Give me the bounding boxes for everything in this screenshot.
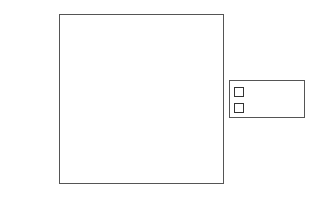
legend-swatch xyxy=(234,87,244,97)
legend-item-general-school xyxy=(234,100,300,116)
legend xyxy=(229,80,305,118)
legend-swatch xyxy=(234,103,244,113)
plot-area xyxy=(59,14,224,184)
legend-item-key-school xyxy=(234,84,300,100)
